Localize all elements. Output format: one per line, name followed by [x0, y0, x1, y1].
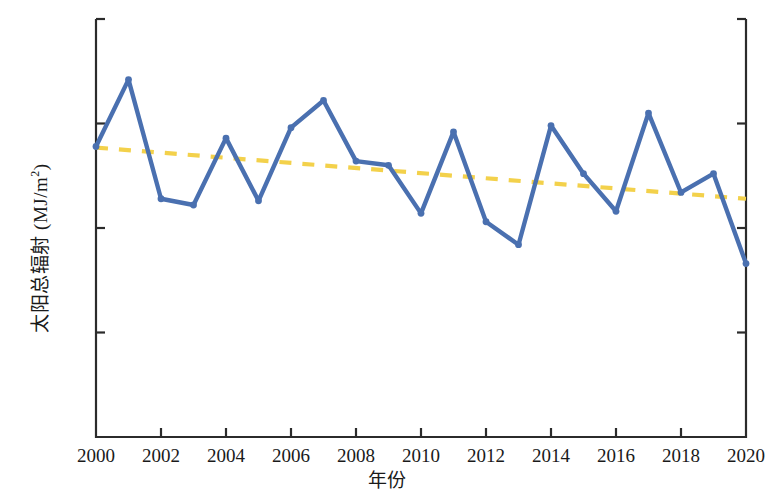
axes [96, 19, 746, 437]
trend-line-series [96, 148, 746, 199]
plot-area [0, 0, 773, 495]
x-axis-title: 年份 [0, 465, 773, 492]
solar-radiation-line-chart: 太阳总辐射 (MJ/m2) 15.0014.5014.0013.5013.00 … [0, 0, 773, 495]
